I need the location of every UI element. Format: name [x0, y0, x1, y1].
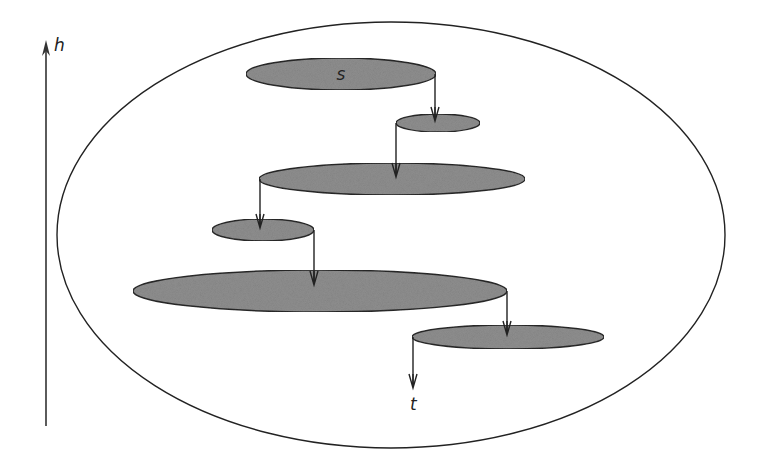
arrow-n2-to-n3 — [392, 123, 400, 177]
arrow-n6-to-t — [409, 337, 417, 388]
node-label: s — [337, 64, 346, 84]
arrow-n4-to-n5 — [310, 230, 318, 285]
node-n2 — [396, 114, 480, 132]
arrow-n3-to-n4 — [256, 179, 264, 228]
h-axis-label: h — [54, 35, 65, 55]
node-ellipse — [212, 219, 314, 241]
node-layer: s — [133, 58, 604, 349]
node-n3 — [259, 163, 525, 195]
node-n6 — [412, 325, 604, 349]
h-axis: h — [42, 35, 65, 426]
node-n5 — [133, 270, 507, 312]
sink-label-t: t — [410, 394, 418, 414]
arrow-down-icon — [409, 374, 417, 388]
flow-diagram: h s t — [0, 0, 758, 470]
node-ellipse — [259, 163, 525, 195]
node-n4 — [212, 219, 314, 241]
node-ellipse — [412, 325, 604, 349]
node-ellipse — [133, 270, 507, 312]
node-n1: s — [246, 58, 436, 90]
node-ellipse — [396, 114, 480, 132]
